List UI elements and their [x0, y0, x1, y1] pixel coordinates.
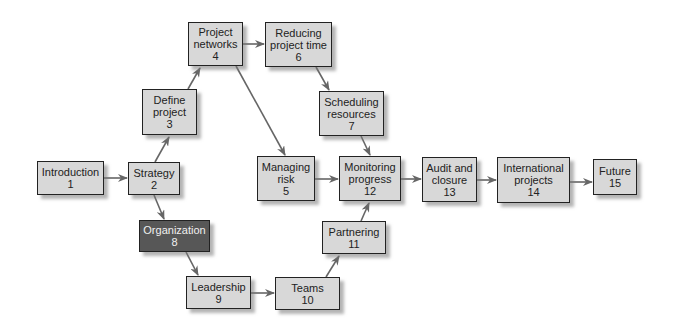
node-number: 10 — [301, 294, 313, 306]
node-label: Monitoring — [344, 161, 395, 173]
node-label: Organization — [143, 224, 205, 236]
arrow-8-to-9 — [186, 252, 198, 275]
node-label: Project — [198, 26, 232, 38]
node-number: 4 — [212, 50, 218, 62]
node-7: Schedulingresources7 — [319, 91, 384, 136]
node-label: networks — [193, 38, 237, 50]
node-number: 5 — [283, 185, 289, 197]
arrow-7-to-12 — [361, 136, 370, 155]
node-number: 9 — [215, 293, 221, 305]
node-label: progress — [349, 173, 392, 185]
node-9: Leadership9 — [186, 276, 251, 309]
node-number: 15 — [609, 177, 621, 189]
arrow-6-to-7 — [316, 67, 329, 90]
node-2: Strategy2 — [128, 162, 180, 195]
node-10: Teams10 — [275, 277, 340, 310]
node-11: Partnering11 — [322, 221, 386, 254]
node-label: Partnering — [329, 226, 380, 238]
node-label: project — [153, 106, 186, 118]
node-label: Strategy — [134, 167, 175, 179]
flow-diagram: Introduction1Strategy2Defineproject3Proj… — [0, 0, 674, 333]
node-number: 1 — [67, 178, 73, 190]
arrow-3-to-4 — [188, 68, 200, 89]
arrow-10-to-11 — [326, 256, 339, 277]
node-5: Managingrisk5 — [257, 156, 315, 201]
node-1: Introduction1 — [37, 161, 104, 195]
node-4: Projectnetworks4 — [188, 22, 243, 66]
node-8: Organization8 — [139, 220, 210, 252]
node-number: 3 — [166, 118, 172, 130]
node-label: International — [503, 162, 564, 174]
arrow-2-to-8 — [154, 195, 164, 219]
node-3: Defineproject3 — [142, 89, 197, 135]
arrow-4-to-5 — [236, 66, 285, 155]
arrow-11-to-12 — [361, 203, 369, 221]
node-number: 11 — [348, 238, 359, 250]
node-number: 8 — [171, 236, 177, 248]
node-label: risk — [277, 173, 294, 185]
node-number: 14 — [527, 186, 539, 198]
node-label: Audit and — [426, 162, 472, 174]
node-label: Teams — [291, 282, 323, 294]
node-number: 12 — [364, 185, 376, 197]
node-label: Managing — [262, 161, 310, 173]
node-15: Future15 — [593, 159, 637, 195]
node-12: Monitoringprogress12 — [339, 156, 401, 201]
node-label: resources — [327, 108, 375, 120]
node-14: Internationalprojects14 — [497, 157, 570, 203]
node-label: closure — [432, 174, 467, 186]
node-label: Future — [599, 165, 631, 177]
node-label: Scheduling — [324, 96, 378, 108]
node-number: 2 — [151, 179, 157, 191]
node-label: Introduction — [42, 166, 99, 178]
arrow-2-to-3 — [155, 137, 169, 162]
node-label: project time — [270, 39, 327, 51]
node-label: Define — [154, 94, 186, 106]
node-13: Audit andclosure13 — [422, 157, 477, 202]
node-number: 6 — [295, 51, 301, 63]
node-number: 13 — [443, 186, 455, 198]
node-label: Leadership — [191, 281, 245, 293]
node-number: 7 — [348, 120, 354, 132]
node-6: Reducingproject time6 — [265, 22, 332, 67]
node-label: projects — [514, 174, 553, 186]
node-label: Reducing — [275, 27, 321, 39]
